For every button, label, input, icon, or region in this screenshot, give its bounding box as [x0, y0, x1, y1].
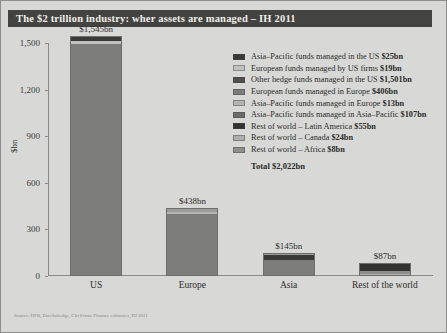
y-axis-tick-label: 600 — [1, 178, 40, 188]
legend-item-label: Asia–Pacific funds managed in the US $25… — [251, 52, 403, 61]
bar-value-label: $145bn — [275, 241, 302, 251]
bar[interactable]: $1,545bnUS — [70, 36, 122, 276]
bar-group[interactable]: $87bnRest of the world — [359, 263, 411, 277]
page-title: The $2 trillion industry: wher assets ar… — [8, 13, 296, 24]
legend-item-value: $13bn — [383, 99, 405, 108]
y-axis-tick-label: 0 — [1, 271, 40, 281]
legend-item[interactable]: Asia–Pacific funds managed in the US $25… — [233, 51, 438, 63]
bar-segment — [167, 214, 217, 275]
y-axis-tick-mark — [45, 276, 48, 277]
legend-item-label: Other hedge funds managed in the US $1,5… — [251, 75, 412, 84]
y-axis-title: $bn — [9, 140, 19, 154]
legend-item-label: Asia–Pacific funds managed in Asia–Pacif… — [251, 110, 426, 119]
legend-item[interactable]: Asia–Pacific funds managed in Europe $13… — [233, 97, 438, 109]
bar[interactable]: $145bnAsia — [263, 253, 315, 276]
legend-item-label: Rest of world – Africa $8bn — [251, 145, 345, 154]
x-axis-category-label: Rest of the world — [352, 280, 418, 290]
y-axis-tick-label: 1,200 — [1, 85, 40, 95]
legend-swatch-icon — [233, 123, 245, 129]
y-axis-tick-label: 900 — [1, 131, 40, 141]
legend-item-value: $1,501bn — [380, 75, 412, 84]
legend-swatch-icon — [233, 112, 245, 118]
bar-value-label: $1,545bn — [79, 24, 113, 34]
legend-item-label: Asia–Pacific funds managed in Europe $13… — [251, 99, 404, 108]
legend-swatch-icon — [233, 65, 245, 71]
legend-item-label: European funds managed in Europe $406bn — [251, 87, 398, 96]
legend-item-value: $8bn — [327, 145, 345, 154]
legend-item-label: European funds managed by US firms $19bn — [251, 64, 402, 73]
legend-item[interactable]: Other hedge funds managed in the US $1,5… — [233, 74, 438, 86]
legend-item-value: $25bn — [381, 52, 403, 61]
x-axis-category-label: US — [90, 280, 102, 290]
bar-value-label: $438bn — [179, 196, 206, 206]
legend-item-label: Rest of world – Canada $24bn — [251, 133, 353, 142]
bar-segment — [71, 44, 121, 275]
legend-item[interactable]: Asia–Pacific funds managed in Asia–Pacif… — [233, 109, 438, 121]
x-axis-category-label: Asia — [280, 280, 297, 290]
legend-swatch-icon — [233, 147, 245, 153]
x-axis-category-label: Europe — [179, 280, 206, 290]
legend-item-value: $406bn — [372, 87, 398, 96]
chart-legend: Asia–Pacific funds managed in the US $25… — [233, 51, 438, 171]
bar-group[interactable]: $145bnAsia — [263, 253, 315, 276]
bar-group[interactable]: $438bnEurope — [166, 208, 218, 276]
bar-segment — [264, 260, 314, 275]
chart-title-bar: The $2 trillion industry: wher assets ar… — [8, 10, 432, 27]
y-axis-tick-label: 300 — [1, 224, 40, 234]
legend-items: Asia–Pacific funds managed in the US $25… — [233, 51, 438, 155]
source-footnote: Source: HFR, Eurekahedge, Citi Prime Fin… — [14, 313, 434, 318]
bar-segment — [360, 264, 410, 271]
legend-item-value: $55bn — [354, 122, 376, 131]
bar[interactable]: $87bnRest of the world — [359, 263, 411, 277]
y-axis-tick-label: 1,500 — [1, 38, 40, 48]
legend-swatch-icon — [233, 89, 245, 95]
legend-item[interactable]: European funds managed in Europe $406bn — [233, 86, 438, 98]
chart-screenshot: The $2 trillion industry: wher assets ar… — [0, 0, 447, 333]
legend-item-value: $19bn — [380, 64, 402, 73]
bar-group[interactable]: $1,545bnUS — [70, 36, 122, 276]
legend-item[interactable]: Rest of world – Canada $24bn — [233, 132, 438, 144]
legend-item-value: $24bn — [331, 133, 353, 142]
legend-item-label: Rest of world – Latin America $55bn — [251, 122, 376, 131]
legend-item-value: $107bn — [401, 110, 427, 119]
legend-item[interactable]: European funds managed by US firms $19bn — [233, 63, 438, 75]
bar[interactable]: $438bnEurope — [166, 208, 218, 276]
bar-value-label: $87bn — [374, 251, 397, 261]
legend-swatch-icon — [233, 54, 245, 60]
legend-swatch-icon — [233, 100, 245, 106]
legend-swatch-icon — [233, 135, 245, 141]
bar-segment — [360, 274, 410, 275]
legend-item[interactable]: Rest of world – Latin America $55bn — [233, 121, 438, 133]
legend-swatch-icon — [233, 77, 245, 83]
legend-total: Total $2,022bn — [251, 161, 438, 171]
legend-item[interactable]: Rest of world – Africa $8bn — [233, 144, 438, 156]
